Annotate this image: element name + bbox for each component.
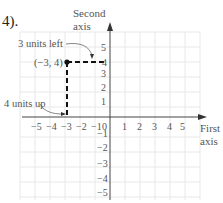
y-tick: −4 [97,173,108,184]
x-axis-arrow-icon [198,114,207,120]
y-tick: 5 [101,42,106,53]
y-tick: −3 [97,158,108,169]
coordinate-plane: 4). Second axis First axis 3 units left … [0,0,223,203]
y-tick: 3 [101,68,106,79]
plotted-point [64,59,69,64]
x-tick: 2 [137,121,142,132]
x-tick: 4 [167,121,172,132]
y-tick: −1 [97,128,108,139]
y-tick-labels: 1 2 3 4 5 −1 −2 −3 −4 −5 [97,42,108,198]
y-tick: −5 [97,187,108,198]
y-axis-label: Second [73,7,106,19]
axes [22,28,200,200]
problem-number: 4). [2,13,18,30]
y-tick: 2 [101,82,106,93]
y-axis-label-2: axis [73,20,91,32]
y-tick: 4 [102,57,107,68]
x-tick: 5 [180,121,185,132]
left-annotation-arrow [66,44,92,57]
x-tick: 1 [122,121,127,132]
x-tick: −4 [46,121,57,132]
point-label: (−3, 4) [34,57,63,69]
left-annotation-arrowhead-icon [90,54,94,59]
x-axis-label: First [200,122,220,134]
x-tick: −3 [61,121,72,132]
x-tick: −5 [31,121,42,132]
annotation-up: 4 units up [4,98,45,109]
x-tick: −2 [76,121,87,132]
y-axis-arrow-icon [107,22,113,31]
x-tick: 3 [152,121,157,132]
x-tick-labels: −5 −4 −3 −2 −1 0 1 2 3 4 5 [31,121,185,132]
annotation-left: 3 units left [18,38,63,49]
x-axis-label-2: axis [200,135,218,147]
y-tick: 1 [101,96,106,107]
y-tick: −2 [97,142,108,153]
